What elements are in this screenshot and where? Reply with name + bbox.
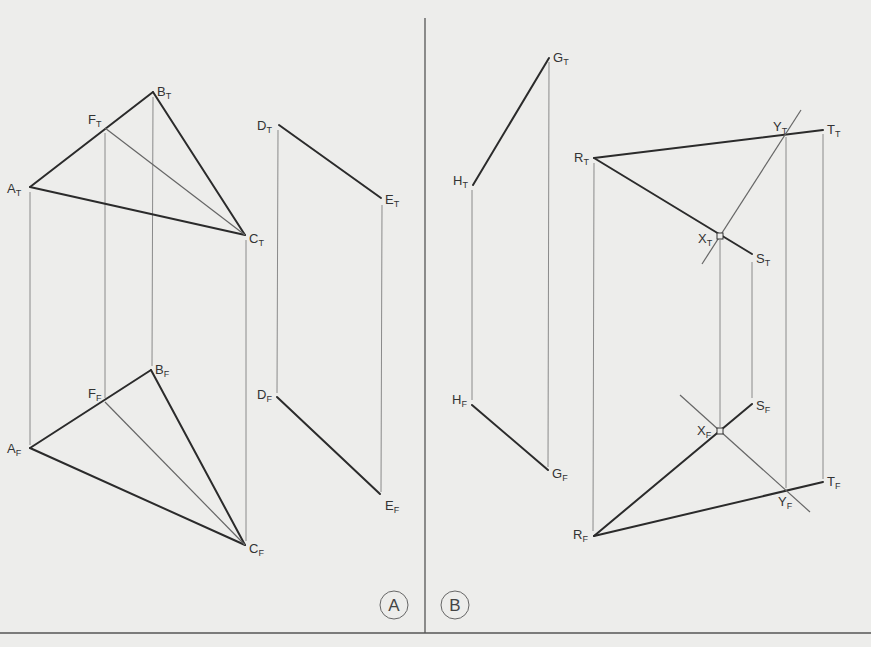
line-rs-top-view (594, 158, 752, 254)
point-x-f-marker (717, 428, 723, 434)
label-r-f: RF (573, 527, 588, 544)
label-g-f: GF (552, 466, 568, 483)
projector-e (381, 205, 382, 492)
panel-marker-b: B (441, 591, 469, 619)
panel-marker-a: A (380, 591, 408, 619)
label-b-t: BT (157, 84, 172, 101)
label-y-t: YT (773, 119, 788, 136)
drawing-sheet: AT BT FT CT DT ET AF BF FF CF DF EF A (0, 0, 871, 647)
descriptive-geometry-figure: AT BT FT CT DT ET AF BF FF CF DF EF A (0, 0, 871, 647)
triangle-abc-front-view (30, 370, 245, 545)
label-x-t: XT (698, 231, 713, 248)
line-gh-front-view (472, 405, 548, 470)
panel-b: GT HT HF GF RT YT TT XT ST SF XF TF YF R… (441, 50, 841, 619)
svg-text:B: B (449, 596, 460, 615)
label-a-f: AF (7, 441, 22, 458)
label-y-f: YF (778, 494, 793, 511)
label-c-f: CF (249, 541, 264, 558)
line-rt-top-view (594, 130, 823, 158)
line-de-front-view (277, 397, 380, 494)
line-fc-front (105, 402, 245, 545)
label-h-t: HT (453, 173, 468, 190)
label-f-t: FT (88, 112, 102, 129)
label-d-f: DF (257, 387, 272, 404)
label-e-t: ET (385, 192, 400, 209)
projector-b (152, 97, 153, 366)
label-b-f: BF (155, 362, 170, 379)
point-x-t-marker (717, 233, 723, 239)
label-c-t: CT (249, 231, 264, 248)
label-e-f: EF (385, 498, 400, 515)
label-t-f: TF (827, 474, 841, 491)
panel-a: AT BT FT CT DT ET AF BF FF CF DF EF A (7, 84, 408, 619)
triangle-abc-top-view (30, 92, 245, 235)
label-f-f: FF (88, 386, 102, 403)
label-d-t: DT (257, 118, 272, 135)
projector-r (593, 163, 594, 531)
label-x-f: XF (697, 423, 712, 440)
line-rs-front-view (594, 404, 752, 536)
label-a-t: AT (7, 181, 22, 198)
label-r-t: RT (574, 150, 589, 167)
label-s-f: SF (756, 398, 771, 415)
projector-d (277, 130, 278, 393)
line-gh-top-view (473, 58, 549, 185)
line-de-top-view (279, 125, 381, 198)
projector-g (548, 62, 549, 467)
cutting-plane-front-view (680, 395, 810, 512)
label-g-t: GT (553, 50, 569, 67)
label-s-t: ST (756, 251, 771, 268)
label-h-f: HF (452, 392, 467, 409)
svg-text:A: A (388, 596, 400, 615)
label-t-t: TT (827, 122, 841, 139)
